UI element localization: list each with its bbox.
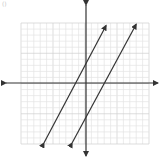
- line-1: [44, 25, 106, 142]
- coordinate-plane: [0, 0, 160, 157]
